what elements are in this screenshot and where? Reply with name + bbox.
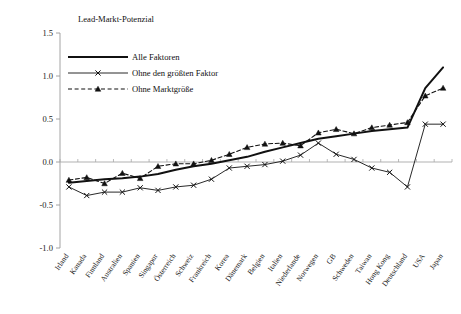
y-tick-label: -1.0 <box>40 243 53 253</box>
x-category-label: Japan <box>427 252 444 271</box>
y-tick-label: 0.0 <box>42 157 53 167</box>
legend-label: Alle Faktoren <box>132 52 180 62</box>
x-category-label-text: USA <box>411 252 427 270</box>
x-category-label-text: Belgien <box>246 252 267 277</box>
chart-title: Lead-Markt-Potenzial <box>78 14 154 24</box>
x-category-label: Belgien <box>246 252 267 277</box>
y-tick-label: -0.5 <box>40 200 53 210</box>
lead-market-potential-chart: 1.51.00.50.0-0.5-1.0IrlandKanadaFinnland… <box>0 0 461 314</box>
x-category-label-text: GB <box>324 252 337 266</box>
x-category-label-text: Japan <box>427 252 444 271</box>
series-3 <box>66 85 446 186</box>
series-line <box>69 88 443 183</box>
x-category-label: GB <box>324 252 337 266</box>
legend-label: Ohne den größten Faktor <box>132 68 218 78</box>
y-tick-label: 1.5 <box>42 28 53 38</box>
legend-item-2: Ohne den größten Faktor <box>68 68 218 78</box>
y-tick-label: 0.5 <box>42 114 53 124</box>
legend-item-1: Alle Faktoren <box>68 52 180 62</box>
legend-item-3: Ohne Marktgröße <box>68 84 194 94</box>
legend-label: Ohne Marktgröße <box>132 84 194 94</box>
x-category-label: USA <box>411 252 427 270</box>
chart-container: 1.51.00.50.0-0.5-1.0IrlandKanadaFinnland… <box>0 0 461 314</box>
y-tick-label: 1.0 <box>42 71 53 81</box>
